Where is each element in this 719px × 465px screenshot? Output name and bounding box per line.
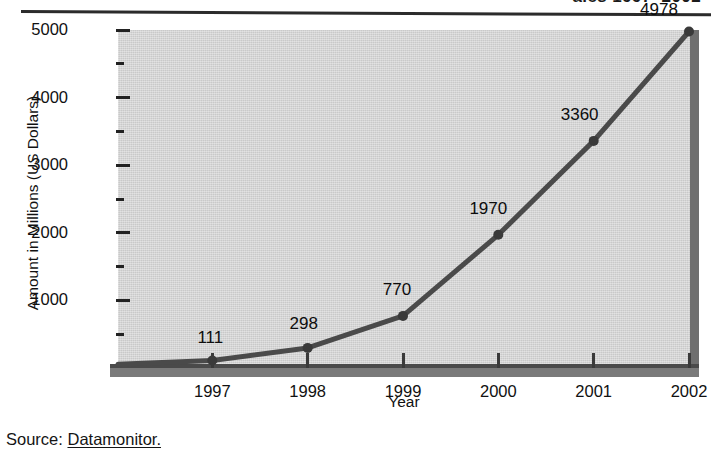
plot-floor: [110, 368, 699, 377]
data-series: [118, 30, 690, 368]
y-tick-label: 5000: [0, 21, 68, 38]
source-note: Source: Datamonitor.: [6, 430, 161, 449]
data-point-marker: [684, 27, 694, 37]
y-tick-label: 2000: [0, 224, 68, 241]
y-tick-label: 3000: [0, 156, 68, 173]
y-tick-label: 1000: [0, 291, 68, 308]
source-label: Source:: [6, 430, 63, 448]
x-axis-title: Year: [118, 393, 690, 411]
data-point-label: 111: [197, 328, 223, 348]
data-point-marker: [493, 230, 503, 240]
source-value: Datamonitor.: [67, 430, 161, 448]
running-header-text: ales 1997–2002: [572, 0, 701, 7]
data-point-marker: [207, 356, 217, 366]
data-point-label: 3360: [561, 105, 599, 125]
data-point-label: 1970: [469, 199, 507, 219]
series-markers: [207, 27, 694, 366]
plot-right-wall: [690, 30, 699, 368]
data-point-label: 4978: [640, 0, 678, 20]
data-point-marker: [303, 343, 313, 353]
running-header: ales 1997–2002: [0, 0, 719, 9]
data-point-label: 770: [383, 280, 411, 300]
data-point-label: 298: [289, 314, 317, 334]
y-tick-label: 4000: [0, 89, 68, 106]
data-point-marker: [589, 136, 599, 146]
plot-area: 10002000300040005000 1997199819992000200…: [118, 30, 690, 368]
data-point-marker: [398, 311, 408, 321]
chart-figure: Amount in Millions (US Dollars) 10002000…: [0, 14, 719, 414]
